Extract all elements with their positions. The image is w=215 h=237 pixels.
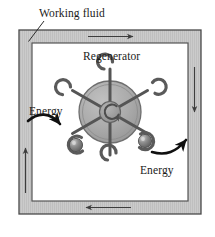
energy-in-label: Energy (29, 106, 63, 118)
inlet-sphere (69, 138, 82, 151)
energy-sphere-inlet (68, 136, 82, 153)
diagram-canvas (0, 0, 215, 237)
energy-sphere-outlet (138, 133, 153, 150)
energy-out-label: Energy (140, 165, 174, 177)
outlet-sphere (138, 134, 151, 147)
working-fluid-label: Working fluid (39, 8, 105, 20)
stirling-regenerator-diagram: Working fluid Regenerator Energy Energy (0, 0, 215, 237)
inlet-sphere-highlight (72, 141, 76, 145)
regenerator-label: Regenerator (83, 51, 140, 63)
outlet-sphere-highlight (141, 137, 145, 141)
